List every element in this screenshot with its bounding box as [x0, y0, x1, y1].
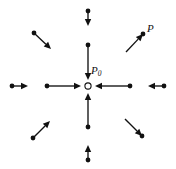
endpoint-dot-diag-lower-left: [31, 136, 36, 141]
arrow-head: [148, 83, 155, 89]
endpoint-dot-diag-lower-right: [140, 134, 145, 139]
arrow-diag-upper-left: [34, 33, 51, 49]
arrow-diag-lower-left: [33, 121, 50, 138]
center-point-marker: [85, 83, 91, 89]
endpoint-dot-outer-top: [86, 9, 91, 14]
arrow-head: [85, 19, 91, 26]
endpoint-dot-diag-upper-left: [32, 31, 37, 36]
arrow-head: [95, 83, 102, 89]
endpoint-dot-outer-right: [162, 84, 167, 89]
endpoint-dot-outer-bottom: [86, 158, 91, 163]
arrow-inner-right-from-right: [95, 83, 130, 89]
arrow-head: [74, 83, 81, 89]
endpoint-dot-diag-upper-right: [141, 32, 146, 37]
arrow-head: [85, 145, 91, 152]
label-p-zero: P0: [91, 65, 101, 78]
arrow-head: [21, 83, 28, 89]
endpoint-dot-outer-left: [10, 84, 15, 89]
endpoint-dot-inner-down-from-bottom: [86, 125, 91, 130]
arrow-inner-down-from-bottom: [85, 93, 91, 127]
arrow-diag-lower-right: [125, 119, 142, 136]
arrow-inner-left-from-left: [47, 83, 81, 89]
vector-field-diagram: P0 P: [0, 0, 176, 169]
arrow-diag-upper-right: [126, 34, 143, 52]
endpoint-dot-inner-left-from-left: [45, 84, 50, 89]
endpoint-dot-inner-right-from-right: [128, 84, 133, 89]
endpoint-dot-inner-up-from-top: [86, 43, 91, 48]
label-p: P: [147, 23, 154, 34]
arrow-head: [85, 93, 91, 100]
